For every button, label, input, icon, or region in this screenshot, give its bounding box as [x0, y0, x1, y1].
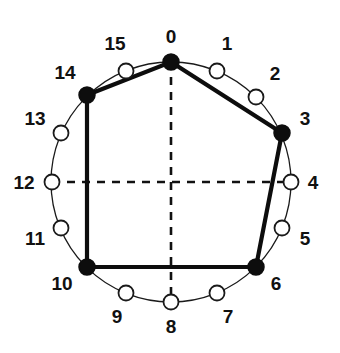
node-8-open[interactable] — [164, 295, 179, 310]
node-label-11: 11 — [25, 228, 46, 249]
node-label-5: 5 — [300, 228, 311, 249]
node-5-open[interactable] — [275, 221, 290, 236]
node-14-filled[interactable] — [79, 87, 95, 103]
node-label-9: 9 — [112, 306, 123, 327]
node-label-8: 8 — [166, 316, 177, 337]
node-4-open[interactable] — [284, 175, 299, 190]
node-7-open[interactable] — [210, 286, 225, 301]
node-label-2: 2 — [270, 63, 281, 84]
node-label-13: 13 — [24, 108, 45, 129]
node-label-15: 15 — [104, 33, 126, 54]
node-label-10: 10 — [51, 273, 72, 294]
node-1-open[interactable] — [210, 64, 225, 79]
node-label-7: 7 — [223, 306, 234, 327]
node-label-1: 1 — [222, 33, 233, 54]
node-10-filled[interactable] — [79, 259, 95, 275]
node-9-open[interactable] — [119, 286, 134, 301]
node-label-14: 14 — [54, 62, 76, 83]
node-6-filled[interactable] — [248, 259, 264, 275]
node-13-open[interactable] — [54, 126, 69, 141]
node-label-3: 3 — [300, 108, 311, 129]
node-15-open[interactable] — [119, 64, 134, 79]
node-2-open[interactable] — [249, 90, 264, 105]
node-11-open[interactable] — [54, 221, 69, 236]
node-3-filled[interactable] — [274, 125, 290, 141]
circular-node-diagram: 0123456789101112131415 — [0, 0, 340, 353]
node-label-4: 4 — [308, 172, 319, 193]
node-12-open[interactable] — [45, 175, 60, 190]
node-label-0: 0 — [166, 26, 177, 47]
node-label-6: 6 — [271, 273, 282, 294]
diagram-canvas: 0123456789101112131415 — [0, 0, 340, 353]
node-0-filled[interactable] — [163, 54, 179, 70]
node-label-12: 12 — [13, 172, 34, 193]
